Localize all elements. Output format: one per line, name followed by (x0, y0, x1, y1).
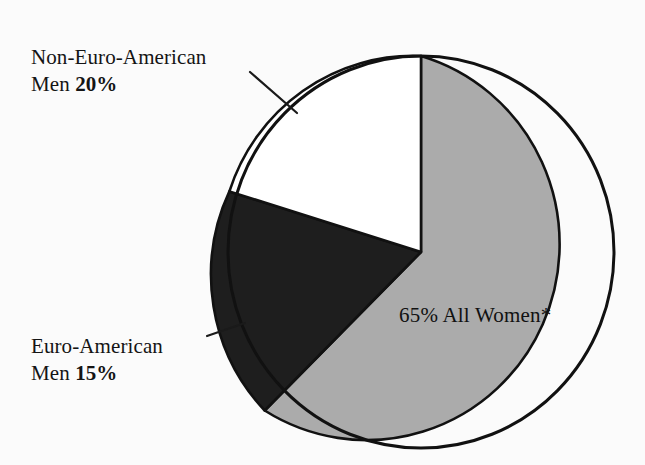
callout-line-1: Euro-American (31, 333, 163, 360)
callout-label-non-euro-american-men: Non-Euro-American Men 20% (31, 44, 206, 99)
leader-line-non-euro-american-men (250, 72, 297, 113)
callout-percent: 15% (75, 361, 117, 385)
callout-line-2: Men 15% (31, 360, 163, 387)
callout-percent: 20% (75, 72, 117, 96)
callout-line-2: Men 20% (31, 71, 206, 98)
pie-chart-figure: Non-Euro-American Men 20% Euro-American … (0, 0, 645, 465)
callout-label-euro-american-men: Euro-American Men 15% (31, 333, 163, 388)
callout-line-1: Non-Euro-American (31, 44, 206, 71)
slice-label-all-women: 65% All Women* (399, 303, 551, 328)
callout-prefix: Men (31, 72, 75, 96)
callout-prefix: Men (31, 361, 75, 385)
